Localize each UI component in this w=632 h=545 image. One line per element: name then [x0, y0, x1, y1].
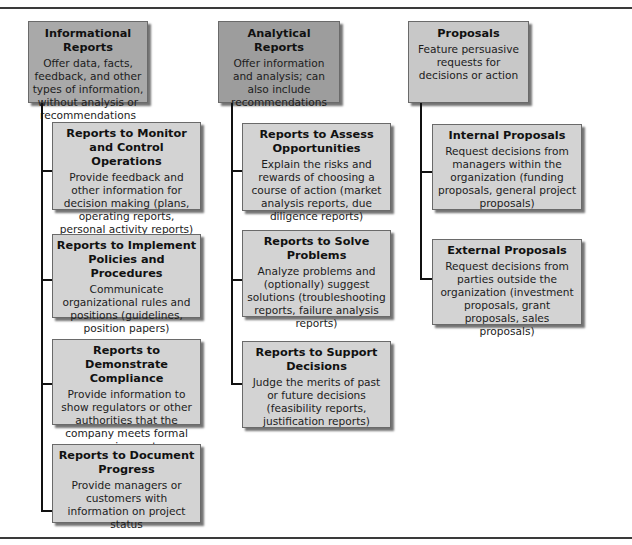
- box-reports-solve-problems: Reports to Solve Problems Analyze proble…: [242, 230, 391, 317]
- box-description: Offer data, facts, feedback, and other t…: [32, 57, 144, 122]
- box-description: Analyze problems and (optionally) sugges…: [246, 265, 387, 330]
- box-reports-document-progress: Reports to Document Progress Provide man…: [52, 444, 201, 523]
- box-title: Reports to Implement Policies and Proced…: [56, 239, 197, 281]
- box-title: Reports to Support Decisions: [246, 346, 387, 374]
- box-description: Provide managers or customers with infor…: [56, 479, 197, 531]
- box-title: Reports to Demonstrate Compliance: [56, 344, 197, 386]
- box-informational-reports: Informational Reports Offer data, facts,…: [28, 21, 148, 103]
- box-title: External Proposals: [436, 244, 578, 258]
- box-title: Informational Reports: [32, 27, 144, 55]
- connector-trunk: [231, 103, 233, 385]
- box-title: Internal Proposals: [436, 129, 578, 143]
- box-title: Proposals: [412, 27, 525, 41]
- box-reports-demonstrate-compliance: Reports to Demonstrate Compliance Provid…: [52, 339, 201, 425]
- box-description: Provide feedback and other information f…: [56, 171, 197, 236]
- box-proposals: Proposals Feature persuasive requests fo…: [408, 21, 529, 103]
- box-description: Judge the merits of past or future decis…: [246, 376, 387, 428]
- connector-trunk: [420, 103, 422, 280]
- box-description: Request decisions from parties outside t…: [436, 260, 578, 338]
- box-description: Explain the risks and rewards of choosin…: [246, 158, 387, 223]
- box-internal-proposals: Internal Proposals Request decisions fro…: [432, 124, 582, 210]
- bottom-rule: [0, 537, 632, 539]
- box-description: Communicate organizational rules and pos…: [56, 283, 197, 335]
- box-title: Reports to Assess Opportunities: [246, 128, 387, 156]
- box-external-proposals: External Proposals Request decisions fro…: [432, 239, 582, 325]
- box-description: Request decisions from managers within t…: [436, 145, 578, 210]
- box-title: Analytical Reports: [222, 27, 336, 55]
- box-description: Feature persuasive requests for decision…: [412, 43, 525, 82]
- box-reports-assess-opportunities: Reports to Assess Opportunities Explain …: [242, 123, 391, 211]
- box-reports-monitor-control: Reports to Monitor and Control Operation…: [52, 122, 201, 210]
- box-title: Reports to Monitor and Control Operation…: [56, 127, 197, 169]
- box-title: Reports to Document Progress: [56, 449, 197, 477]
- box-analytical-reports: Analytical Reports Offer information and…: [218, 21, 340, 103]
- box-title: Reports to Solve Problems: [246, 235, 387, 263]
- box-description: Offer information and analysis; can also…: [222, 57, 336, 109]
- box-reports-implement-policies: Reports to Implement Policies and Proced…: [52, 234, 201, 318]
- top-rule: [0, 7, 632, 9]
- box-reports-support-decisions: Reports to Support Decisions Judge the m…: [242, 341, 391, 428]
- connector-trunk: [41, 103, 43, 512]
